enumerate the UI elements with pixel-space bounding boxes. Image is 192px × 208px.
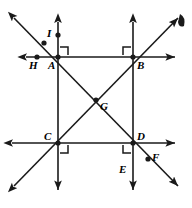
lines-group	[12, 18, 178, 190]
right-angle-mark-B	[123, 47, 131, 55]
point-dot-b	[130, 54, 135, 59]
point-dot-a	[55, 54, 60, 59]
point-dot-i	[41, 40, 46, 45]
point-label-i: I	[47, 28, 51, 39]
point-label-g: G	[100, 101, 108, 112]
right-angle-mark-C	[60, 145, 68, 153]
point-dot-d	[130, 140, 135, 145]
point-dot-c	[55, 140, 60, 145]
point-label-c: C	[44, 131, 51, 142]
right-angle-mark-D	[123, 145, 131, 153]
point-dot-g	[93, 97, 98, 102]
edge-fragment-top-right	[178, 14, 185, 27]
edge-fragment-shape	[178, 14, 185, 27]
point-label-b: B	[137, 60, 144, 71]
point-label-a: A	[48, 60, 55, 71]
point-label-e: E	[119, 164, 126, 175]
right-angle-mark-A	[60, 47, 68, 55]
point-label-d: D	[137, 131, 145, 142]
point-label-h: H	[29, 60, 38, 71]
point-label-f: F	[152, 152, 159, 163]
point-dot-j	[55, 32, 60, 37]
geometry-figure: ABCDGHIEF	[0, 0, 192, 208]
geometry-canvas	[0, 0, 192, 208]
point-dot-f	[145, 156, 150, 161]
